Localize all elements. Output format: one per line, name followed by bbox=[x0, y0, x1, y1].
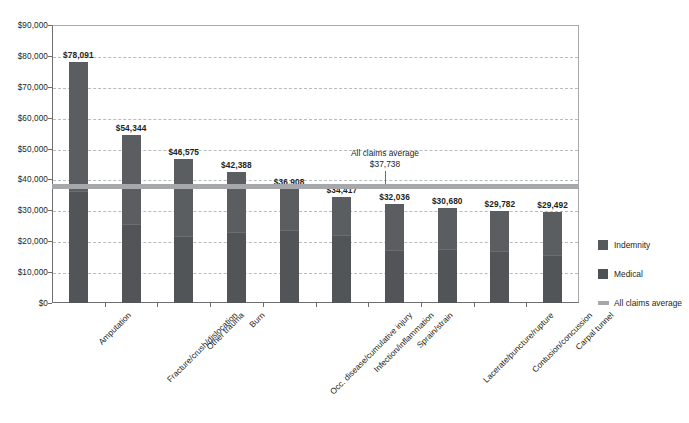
all-claims-average-annotation: All claims average$37,738 bbox=[330, 148, 440, 169]
indemnity-swatch bbox=[598, 240, 608, 250]
bar-slot: $29,782 bbox=[474, 25, 527, 303]
legend-item-all-claims-average[interactable]: All claims average bbox=[598, 298, 688, 308]
bar-segment-indemnity bbox=[385, 204, 404, 250]
x-axis-label-amputation: Amputation bbox=[97, 310, 134, 347]
bar-segment-indemnity bbox=[227, 172, 246, 232]
bar-segment-medical bbox=[174, 236, 193, 303]
y-axis-tick-label: $30,000 bbox=[0, 206, 48, 215]
bar-infection-inflammation[interactable]: $34,417 bbox=[332, 197, 351, 303]
legend-item-indemnity[interactable]: Indemnity bbox=[598, 240, 688, 250]
bar-value-label: $78,091 bbox=[63, 50, 94, 60]
y-axis-tick-label: $80,000 bbox=[0, 51, 48, 60]
x-axis-labels: AmputationFracture/crush/dislocationOthe… bbox=[52, 306, 579, 416]
bar-segment-medical bbox=[227, 232, 246, 303]
y-axis-tick-label: $10,000 bbox=[0, 268, 48, 277]
bar-segment-medical bbox=[122, 224, 141, 303]
bar-segment-indemnity bbox=[69, 62, 88, 191]
bar-segment-medical bbox=[69, 191, 88, 303]
average-annotation-leader-line bbox=[385, 171, 386, 184]
y-axis-tick-label: $90,000 bbox=[0, 21, 48, 30]
legend-item-label: Indemnity bbox=[614, 240, 650, 250]
legend-item-label: Medical bbox=[614, 269, 643, 279]
y-axis-tick-label: $70,000 bbox=[0, 82, 48, 91]
average-annotation-label: All claims average bbox=[330, 148, 440, 159]
average-line-swatch bbox=[598, 301, 609, 305]
top-cropped-artifact bbox=[0, 0, 260, 6]
stacked-bar-chart: $0$10,000$20,000$30,000$40,000$50,000$60… bbox=[0, 0, 689, 423]
medical-swatch bbox=[598, 269, 608, 279]
average-annotation-value: $37,738 bbox=[330, 159, 440, 170]
bar-amputation[interactable]: $78,091 bbox=[69, 62, 88, 303]
bar-value-label: $29,492 bbox=[537, 200, 568, 210]
bar-slot: $78,091 bbox=[52, 25, 105, 303]
bar-segment-medical bbox=[438, 249, 457, 303]
x-axis-label-occ-disease-cumulative-injury: Occ. disease/cumulative injury bbox=[328, 310, 414, 396]
bar-segment-indemnity bbox=[438, 208, 457, 249]
bar-sprain-strain[interactable]: $32,036 bbox=[385, 204, 404, 303]
bar-segment-indemnity bbox=[543, 212, 562, 255]
bar-segment-indemnity bbox=[174, 159, 193, 236]
bar-slot: $42,388 bbox=[210, 25, 263, 303]
bar-lacerate-puncture-rupture[interactable]: $30,680 bbox=[438, 208, 457, 303]
bars-layer: $78,091$54,344$46,575$42,388$36,908$34,4… bbox=[52, 25, 579, 303]
x-axis-label-lacerate-puncture-rupture: Lacerate/puncture/rupture bbox=[481, 310, 556, 385]
bar-segment-medical bbox=[490, 251, 509, 303]
bar-slot: $46,575 bbox=[157, 25, 210, 303]
bar-segment-medical bbox=[332, 235, 351, 303]
bar-value-label: $54,344 bbox=[116, 123, 147, 133]
y-axis-tick-mark bbox=[48, 303, 52, 304]
bar-occ-disease-cumulative-injury[interactable]: $36,908 bbox=[280, 189, 299, 303]
bar-slot: $36,908 bbox=[263, 25, 316, 303]
bar-value-label: $42,388 bbox=[221, 160, 252, 170]
legend-item-label: All claims average bbox=[614, 298, 682, 308]
bar-carpal-tunnel[interactable]: $29,492 bbox=[543, 212, 562, 303]
bar-value-label: $32,036 bbox=[379, 192, 410, 202]
x-axis-label-burn: Burn bbox=[248, 310, 267, 329]
bar-slot: $54,344 bbox=[105, 25, 158, 303]
y-axis-tick-label: $40,000 bbox=[0, 175, 48, 184]
bar-segment-medical bbox=[385, 250, 404, 303]
all-claims-average-line bbox=[52, 184, 579, 189]
bar-segment-indemnity bbox=[490, 211, 509, 251]
legend-item-medical[interactable]: Medical bbox=[598, 269, 688, 279]
bar-value-label: $29,782 bbox=[485, 199, 516, 209]
bar-segment-indemnity bbox=[122, 135, 141, 224]
bar-value-label: $30,680 bbox=[432, 196, 463, 206]
bar-burn[interactable]: $42,388 bbox=[227, 172, 246, 303]
bar-segment-medical bbox=[280, 230, 299, 303]
bar-segment-medical bbox=[543, 255, 562, 303]
y-axis-tick-label: $20,000 bbox=[0, 237, 48, 246]
bar-segment-indemnity bbox=[332, 197, 351, 235]
bar-segment-indemnity bbox=[280, 189, 299, 230]
bar-value-label: $46,575 bbox=[168, 147, 199, 157]
bar-fracture-crush-dislocation[interactable]: $54,344 bbox=[122, 135, 141, 303]
y-axis-tick-label: $50,000 bbox=[0, 144, 48, 153]
bar-slot: $29,492 bbox=[526, 25, 579, 303]
chart-legend: IndemnityMedicalAll claims average bbox=[598, 240, 688, 327]
bar-other-trauma[interactable]: $46,575 bbox=[174, 159, 193, 303]
y-axis-tick-label: $0 bbox=[0, 299, 48, 308]
y-axis-tick-label: $60,000 bbox=[0, 113, 48, 122]
bar-contusion-concussion[interactable]: $29,782 bbox=[490, 211, 509, 303]
